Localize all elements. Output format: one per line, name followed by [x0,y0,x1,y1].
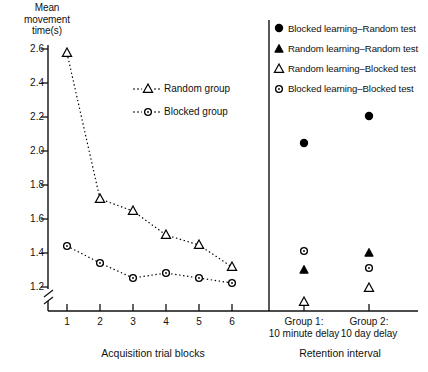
legend-right-marker-blocked-random [275,24,283,32]
retention-points-group-2 [364,112,373,292]
legend-right [274,24,283,93]
data-point-g1-blocked-learning-blocked-test [301,248,308,255]
data-point-blocked-4 [163,270,170,277]
data-point-g1-blocked-learning-random-test [300,139,308,147]
legend-right-marker-random-random [275,44,283,52]
axis-break-mark-upper [44,290,53,297]
data-point-blocked-5 [196,275,203,282]
data-point-random-1 [62,48,71,56]
chart-figure: Mean movement time(s) 2.6 2.4 2.2 2.0 1.… [0,0,428,372]
legend-left [133,84,162,115]
x-axis-ticks-retention [304,304,369,311]
data-point-blocked-6 [229,280,236,287]
data-point-g2-blocked-learning-blocked-test [366,265,373,272]
series-markers-random-group [62,48,236,270]
retention-points-group-1 [299,139,308,306]
data-point-g1-random-learning-blocked-test [299,297,308,305]
data-point-random-3 [128,206,137,214]
y-axis-ticks [41,49,48,287]
data-point-g2-blocked-learning-random-test [365,112,373,120]
data-point-g2-random-learning-random-test [365,248,373,256]
legend-right-marker-blocked-blocked [276,86,283,93]
series-line-random-group [67,53,232,267]
x-axis-ticks-acquisition [67,304,232,311]
data-point-g1-random-learning-random-test [300,265,308,273]
data-point-blocked-1 [64,243,71,250]
series-markers-blocked-group [64,243,236,287]
data-point-blocked-3 [130,275,137,282]
data-point-blocked-2 [97,260,104,267]
data-point-random-6 [227,262,236,270]
series-line-blocked-group [67,246,232,283]
data-point-random-4 [161,230,170,238]
data-point-g2-random-learning-blocked-test [364,283,373,291]
legend-left-marker-random-group [143,84,152,92]
legend-left-marker-blocked-group [145,109,152,116]
legend-right-marker-random-blocked [274,64,283,72]
data-point-random-2 [95,194,104,202]
plot-svg [0,0,428,372]
